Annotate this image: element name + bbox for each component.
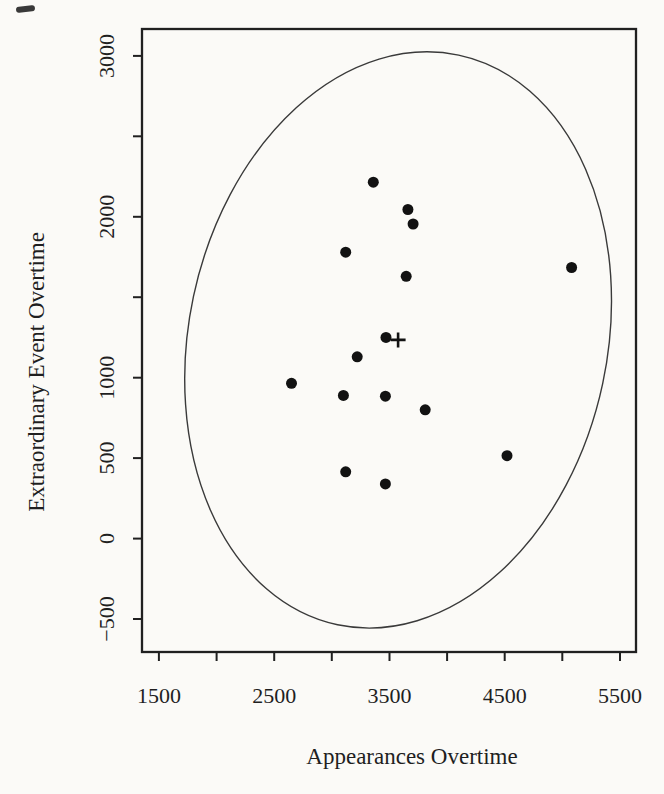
data-point bbox=[401, 271, 412, 282]
data-point bbox=[340, 466, 351, 477]
data-point bbox=[380, 478, 391, 489]
plot-area: 15002500350045005500−5000500100020003000 bbox=[94, 12, 663, 708]
data-point bbox=[408, 219, 419, 230]
x-tick-label: 5500 bbox=[598, 683, 642, 708]
y-tick-label: 1000 bbox=[94, 356, 119, 400]
y-tick-label: 500 bbox=[94, 442, 119, 475]
y-tick-label: 0 bbox=[94, 533, 119, 544]
y-tick-label: 3000 bbox=[94, 34, 119, 78]
data-point bbox=[420, 404, 431, 415]
x-tick-label: 1500 bbox=[137, 683, 181, 708]
y-tick-label: −500 bbox=[94, 596, 119, 641]
y-axis-title: Extraordinary Event Overtime bbox=[24, 232, 49, 512]
scanned-figure-page: 15002500350045005500−5000500100020003000… bbox=[0, 0, 664, 794]
x-tick-label: 3500 bbox=[368, 683, 412, 708]
data-point bbox=[368, 177, 379, 188]
data-point bbox=[338, 390, 349, 401]
x-tick-label: 2500 bbox=[252, 683, 296, 708]
scatter-plot: 15002500350045005500−5000500100020003000… bbox=[0, 0, 664, 794]
data-point bbox=[340, 247, 351, 258]
data-point bbox=[566, 262, 577, 273]
data-point bbox=[502, 450, 513, 461]
data-point bbox=[381, 332, 392, 343]
y-tick-label: 2000 bbox=[94, 195, 119, 239]
x-axis-title: Appearances Overtime bbox=[306, 744, 517, 769]
data-point bbox=[380, 391, 391, 402]
data-point bbox=[352, 351, 363, 362]
mean-plus-marker bbox=[391, 332, 406, 347]
data-point bbox=[402, 204, 413, 215]
data-point bbox=[286, 378, 297, 389]
x-tick-label: 4500 bbox=[483, 683, 527, 708]
